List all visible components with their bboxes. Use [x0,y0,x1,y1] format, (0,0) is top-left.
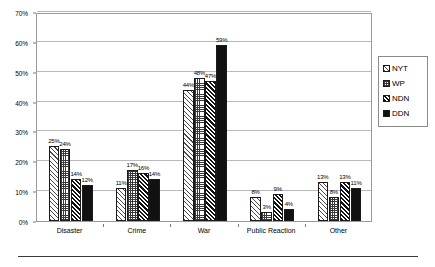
x-axis-tick-label: Disaster [57,226,83,235]
x-axis-tick-label: Crime [127,226,146,235]
y-axis-tick-label: 30% [15,129,28,136]
legend-item-ndn[interactable]: NDN [383,91,424,106]
bar-value-label: 11% [351,180,362,187]
bar-ddn-disaster [82,185,93,221]
y-axis-tick-label: 10% [15,189,28,196]
legend-swatch-icon [383,65,390,72]
bar-value-label: 16% [138,165,149,172]
x-axis-tick-mark [103,224,104,227]
bar-value-label: 14% [149,171,160,178]
x-axis-tick-label: War [198,226,211,235]
bar-value-label: 48% [194,70,205,77]
bar-ndn-crime [138,173,149,221]
bar-nyt-war [183,90,194,221]
bar-ndn-war [205,81,216,221]
legend-item-ddn[interactable]: DDN [383,106,424,121]
legend-item-label: DDN [392,109,409,118]
bar-nyt-other [318,182,329,221]
bar-value-label: 8% [251,189,259,196]
bar-wp-other [329,197,340,221]
gridline [37,11,371,12]
plot-area: 25%24%14%12%11%17%16%14%44%48%47%59%8%3%… [36,13,372,222]
bar-wp-crime [127,170,138,221]
bar-value-label: 24% [59,141,70,148]
bar-ndn-public-reaction [273,194,284,221]
bar-ndn-other [340,182,351,221]
footer-divider [18,256,418,257]
y-axis-tick-label: 40% [15,99,28,106]
bar-value-label: 17% [127,162,138,169]
bar-value-label: 13% [339,174,350,181]
legend-item-label: WP [392,79,405,88]
bar-value-label: 25% [48,138,59,145]
y-axis-tick-label: 0% [19,219,28,226]
bar-wp-war [194,78,205,221]
bar-value-label: 13% [317,174,328,181]
bar-value-label: 11% [116,180,127,187]
bars-layer: 25%24%14%12%11%17%16%14%44%48%47%59%8%3%… [37,14,371,221]
legend-swatch-icon [383,110,390,117]
bar-wp-public-reaction [261,212,272,221]
y-axis-tick-label: 60% [15,39,28,46]
bar-value-label: 8% [330,189,338,196]
bar-value-label: 59% [216,37,227,44]
x-axis-tick-label: Public Reaction [247,226,296,235]
y-axis: 0%10%20%30%40%50%60%70% [0,13,33,222]
bar-nyt-disaster [49,146,60,221]
legend-item-label: NDN [392,94,409,103]
legend-item-nyt[interactable]: NYT [383,61,424,76]
legend-swatch-icon [383,80,390,87]
x-axis-tick-mark [305,224,306,227]
bar-value-label: 47% [205,73,216,80]
bar-ddn-other [351,188,362,221]
y-axis-tick-label: 50% [15,69,28,76]
bar-ddn-public-reaction [284,209,295,221]
bar-wp-disaster [60,149,71,221]
y-axis-tick-label: 70% [15,10,28,17]
bar-value-label: 44% [183,82,194,89]
bar-value-label: 4% [285,201,293,208]
bar-ddn-war [216,45,227,221]
legend-item-wp[interactable]: WP [383,76,424,91]
x-axis: DisasterCrimeWarPublic ReactionOther [36,224,372,240]
legend: NYTWPNDNDDN [378,56,428,127]
bar-nyt-crime [116,188,127,221]
bar-value-label: 14% [70,171,81,178]
bar-chart-figure: 0%10%20%30%40%50%60%70% 25%24%14%12%11%1… [0,0,435,267]
bar-ndn-disaster [71,179,82,221]
bar-nyt-public-reaction [250,197,261,221]
y-axis-tick-label: 20% [15,159,28,166]
bar-value-label: 12% [82,177,93,184]
x-axis-tick-label: Other [330,226,348,235]
bar-ddn-crime [149,179,160,221]
x-axis-tick-mark [238,224,239,227]
legend-swatch-icon [383,95,390,102]
bar-value-label: 3% [263,204,271,211]
legend-item-label: NYT [392,64,408,73]
bar-value-label: 9% [274,186,282,193]
x-axis-tick-mark [170,224,171,227]
